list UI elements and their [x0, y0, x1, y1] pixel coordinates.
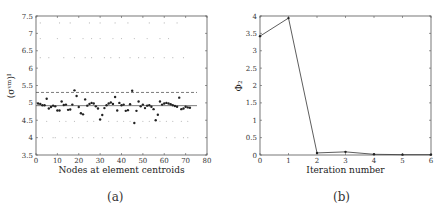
- noise-dot: [147, 137, 148, 138]
- noise-dot: [166, 121, 167, 122]
- data-point: [116, 109, 118, 111]
- noise-dot: [108, 121, 109, 122]
- data-point: [71, 103, 73, 105]
- noise-dot: [65, 121, 66, 122]
- data-point: [48, 107, 50, 109]
- data-point: [88, 103, 90, 105]
- panel-a-xtick-label: 40: [117, 157, 126, 165]
- noise-dot: [119, 57, 120, 58]
- data-point: [43, 104, 45, 106]
- data-point: [430, 153, 432, 155]
- noise-dot: [144, 57, 145, 58]
- noise-dot: [55, 137, 56, 138]
- data-point: [80, 112, 82, 114]
- panel-a-ytick-label: 4.5: [22, 117, 33, 125]
- noise-dot: [104, 57, 105, 58]
- noise-dot: [70, 38, 71, 39]
- panel-a-chart: [36, 16, 207, 155]
- noise-dot: [138, 57, 139, 58]
- noise-dot: [74, 121, 75, 122]
- panel-b-xtick-label: 1: [286, 157, 290, 165]
- noise-dot: [123, 121, 124, 122]
- noise-dot: [72, 137, 73, 138]
- panel-a-ytick-label: 5.5: [22, 82, 33, 90]
- panel-a-xtick-label: 30: [96, 157, 105, 165]
- panel-a-xtick-label: 20: [74, 157, 83, 165]
- panel-b-ytick-label: 2.5: [246, 65, 257, 73]
- noise-dot: [149, 121, 150, 122]
- panel-b-ytick-label: 0: [253, 152, 257, 160]
- panel-b-ytick-label: 3: [253, 47, 257, 55]
- noise-dot: [142, 121, 143, 122]
- data-point: [155, 119, 157, 121]
- data-point: [93, 102, 95, 104]
- data-point: [41, 104, 43, 106]
- data-point: [37, 102, 39, 104]
- data-point: [86, 104, 88, 106]
- noise-dot: [89, 22, 90, 23]
- noise-dot: [65, 137, 66, 138]
- data-point: [56, 109, 58, 111]
- data-point: [45, 98, 47, 100]
- noise-dot: [48, 57, 49, 58]
- data-point: [125, 110, 127, 112]
- noise-dot: [127, 22, 128, 23]
- data-point: [146, 104, 148, 106]
- noise-dot: [153, 57, 154, 58]
- data-point: [67, 109, 69, 111]
- data-point: [99, 118, 101, 120]
- noise-dot: [74, 57, 75, 58]
- panel-a-ytick-label: 7: [29, 30, 33, 38]
- caption-b: (b): [333, 190, 350, 204]
- data-point: [165, 102, 167, 104]
- noise-dot: [183, 57, 184, 58]
- panel-a-ytick-label: 6.5: [22, 47, 33, 55]
- noise-dot: [93, 121, 94, 122]
- data-point: [152, 108, 154, 110]
- panel-b-ytick-label: 3.5: [246, 30, 257, 38]
- data-point: [140, 105, 142, 107]
- caption-a: (a): [107, 190, 124, 204]
- panel-a-ytick-label: 7.5: [22, 13, 33, 21]
- data-point: [172, 104, 174, 106]
- data-point: [50, 106, 52, 108]
- noise-dot: [121, 137, 122, 138]
- noise-dot: [82, 137, 83, 138]
- noise-dot: [87, 121, 88, 122]
- data-point: [118, 102, 120, 104]
- panel-b-xtick-label: 4: [372, 157, 377, 165]
- data-point: [120, 104, 122, 106]
- data-point: [133, 122, 135, 124]
- data-point: [78, 106, 80, 108]
- noise-dot: [112, 38, 113, 39]
- noise-dot: [117, 121, 118, 122]
- data-point: [259, 35, 261, 37]
- noise-dot: [172, 121, 173, 122]
- data-point: [137, 100, 139, 102]
- noise-dot: [168, 38, 169, 39]
- data-point: [112, 103, 114, 105]
- noise-dot: [147, 38, 148, 39]
- data-point: [180, 108, 182, 110]
- data-point: [316, 152, 318, 154]
- noise-dot: [174, 137, 175, 138]
- data-point: [127, 109, 129, 111]
- noise-dot: [166, 137, 167, 138]
- data-point: [131, 90, 133, 92]
- data-point: [142, 103, 144, 105]
- data-point: [187, 106, 189, 108]
- panel-b-ytick-label: 4: [253, 13, 258, 21]
- data-point: [182, 107, 184, 109]
- noise-dot: [100, 22, 101, 23]
- noise-dot: [40, 22, 41, 23]
- noise-dot: [93, 137, 94, 138]
- panel-b-axes-frame: [260, 16, 431, 155]
- data-point: [144, 107, 146, 109]
- panel-a-x-axis-label: Nodes at element centroids: [58, 165, 185, 175]
- noise-dot: [63, 57, 64, 58]
- data-point: [373, 153, 375, 155]
- panel-a-ytick-label: 3.5: [22, 152, 33, 160]
- noise-dot: [172, 57, 173, 58]
- noise-dot: [59, 121, 60, 122]
- noise-dot: [187, 121, 188, 122]
